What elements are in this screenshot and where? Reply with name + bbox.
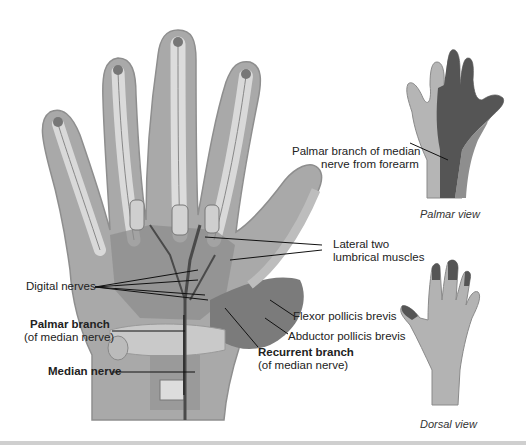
- dorsal-view-hand: [401, 260, 480, 405]
- label-palmar-branch-forearm-line2: nerve from forearm: [321, 158, 419, 171]
- label-median-nerve: Median nerve: [48, 365, 122, 378]
- palmar-view-hand: [407, 50, 504, 198]
- label-lateral-lumbricals-line1: Lateral two: [333, 238, 389, 251]
- bottom-border: [0, 441, 526, 445]
- label-palmar-branch: Palmar branch: [30, 318, 110, 331]
- label-lateral-lumbricals-line2: lumbrical muscles: [333, 251, 424, 264]
- label-recurrent-branch: Recurrent branch: [258, 346, 354, 359]
- label-flexor-pollicis-brevis: Flexor pollicis brevis: [293, 310, 397, 323]
- label-digital-nerves: Digital nerves: [26, 280, 96, 293]
- label-abductor-pollicis-brevis: Abductor pollicis brevis: [288, 330, 406, 343]
- caption-palmar-view: Palmar view: [420, 208, 480, 220]
- caption-dorsal-view: Dorsal view: [420, 418, 477, 430]
- label-recurrent-branch-sub: (of median nerve): [258, 359, 348, 372]
- anatomy-figure: Digital nerves Lateral two lumbrical mus…: [0, 0, 526, 445]
- label-palmar-branch-forearm-line1: Palmar branch of median: [292, 145, 420, 158]
- label-palmar-branch-sub: (of median nerve): [24, 331, 114, 344]
- hand-illustration: [0, 0, 526, 445]
